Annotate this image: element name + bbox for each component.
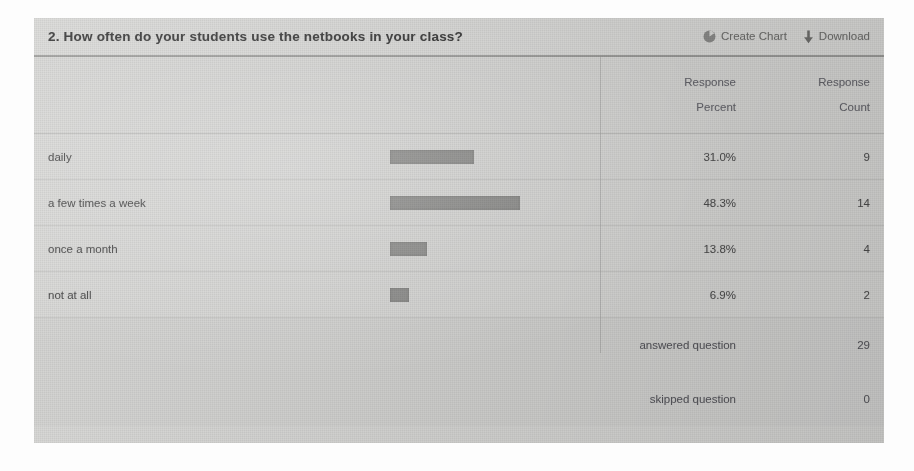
survey-results-table: 2. How often do your students use the ne… [34, 18, 884, 443]
answer-count: 4 [750, 243, 884, 255]
page-background: 2. How often do your students use the ne… [0, 0, 914, 471]
answer-bar [390, 196, 520, 210]
response-percent-line1: Response [684, 70, 736, 95]
answer-count: 9 [750, 151, 884, 163]
answer-bar-cell [390, 196, 600, 210]
response-percent-line2: Percent [696, 95, 736, 120]
answer-label: not at all [34, 289, 390, 301]
table-row: once a month 13.8% 4 [34, 226, 884, 272]
column-header-spacer [34, 57, 600, 133]
table-row: a few times a week 48.3% 14 [34, 180, 884, 226]
download-label: Download [819, 31, 870, 43]
header-actions: Create Chart Download [703, 30, 874, 44]
answer-percent: 31.0% [600, 151, 750, 163]
create-chart-button[interactable]: Create Chart [703, 30, 787, 43]
answer-percent: 6.9% [600, 289, 750, 301]
response-count-line1: Response [818, 70, 870, 95]
column-header-row: Response Percent Response Count [34, 57, 884, 134]
column-header-response-percent: Response Percent [600, 57, 750, 133]
answer-percent: 13.8% [600, 243, 750, 255]
answer-bar-cell [390, 288, 600, 302]
answered-question-row: answered question 29 [34, 318, 884, 372]
response-count-line2: Count [839, 95, 870, 120]
answer-bar-cell [390, 242, 600, 256]
answer-bar [390, 288, 409, 302]
answer-bar [390, 150, 474, 164]
skipped-question-row: skipped question 0 [34, 372, 884, 426]
question-title: 2. How often do your students use the ne… [48, 29, 703, 44]
answered-question-value: 29 [750, 339, 884, 351]
create-chart-label: Create Chart [721, 31, 787, 43]
answer-label: daily [34, 151, 390, 163]
answer-count: 14 [750, 197, 884, 209]
download-arrow-icon [803, 30, 814, 44]
summary-footer: answered question 29 skipped question 0 [34, 318, 884, 426]
table-row: not at all 6.9% 2 [34, 272, 884, 318]
answer-label: a few times a week [34, 197, 390, 209]
pie-chart-icon [703, 30, 716, 43]
answer-bar-cell [390, 150, 600, 164]
answer-bar [390, 242, 427, 256]
download-button[interactable]: Download [803, 30, 870, 44]
answer-count: 2 [750, 289, 884, 301]
answer-label: once a month [34, 243, 390, 255]
table-row: daily 31.0% 9 [34, 134, 884, 180]
skipped-question-label: skipped question [600, 393, 750, 405]
column-header-response-count: Response Count [750, 57, 884, 133]
answered-question-label: answered question [600, 339, 750, 351]
answer-percent: 48.3% [600, 197, 750, 209]
question-header: 2. How often do your students use the ne… [34, 18, 884, 57]
skipped-question-value: 0 [750, 393, 884, 405]
